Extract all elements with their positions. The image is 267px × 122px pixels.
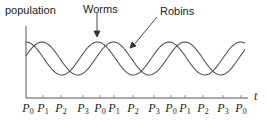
x-tick-label: P1 [37, 101, 48, 116]
x-tick-label: P0 [165, 101, 176, 116]
x-tick-label: P2 [197, 101, 208, 116]
x-tick-label: P0 [235, 101, 246, 116]
worms-arrow [94, 13, 100, 37]
x-tick-label: P0 [94, 101, 105, 116]
robins-label: Robins [160, 5, 194, 17]
robins-arrow [130, 17, 157, 48]
x-tick-label: P1 [108, 101, 119, 116]
x-tick-label: P0 [22, 101, 33, 116]
y-axis-label: population [5, 4, 56, 16]
x-axis-label: t [254, 89, 257, 104]
robins-curve [26, 42, 245, 75]
x-tick-label: P3 [217, 101, 228, 116]
x-tick-label: P2 [55, 101, 66, 116]
x-tick-label: P2 [127, 101, 138, 116]
x-tick-label: P3 [77, 101, 88, 116]
worms-label: Worms [83, 3, 118, 15]
x-tick-label: P3 [148, 101, 159, 116]
x-tick-label: P1 [179, 101, 190, 116]
